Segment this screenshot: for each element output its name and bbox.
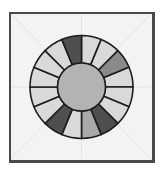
center-hub: [58, 63, 106, 111]
segmented-ring-diagram: [0, 0, 161, 172]
